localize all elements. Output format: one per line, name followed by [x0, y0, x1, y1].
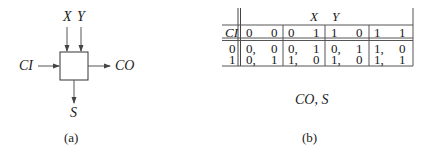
column-label-x: X	[310, 10, 318, 23]
s-arrowhead-icon	[72, 97, 77, 104]
y-arrowhead-icon	[79, 45, 84, 52]
row-header-ci: CI	[225, 26, 238, 39]
x-arrowhead-icon	[65, 45, 70, 52]
cell-r1-c3-s: 1	[399, 53, 406, 66]
cell-r1-c2-co: 1,	[331, 53, 341, 66]
col-4-y: 1	[399, 26, 406, 39]
cell-r1-c3-co: 1,	[374, 53, 384, 66]
cell-r1-c1-s: 0	[313, 53, 320, 66]
col-3-x: 1	[331, 26, 338, 39]
caption-b: (b)	[302, 131, 317, 144]
cell-r1-c0-co: 0,	[246, 53, 256, 66]
cell-r1-c2-s: 0	[356, 53, 363, 66]
col-3-y: 0	[356, 26, 363, 39]
x-input-label: X	[63, 10, 72, 24]
col-1-x: 0	[246, 26, 253, 39]
co-arrowhead-icon	[104, 64, 111, 69]
full-adder-block	[60, 52, 88, 80]
column-label-y: Y	[332, 10, 339, 23]
cell-r1-c0-s: 1	[271, 53, 278, 66]
row-1-ci: 1	[229, 53, 236, 66]
col-1-y: 0	[271, 26, 278, 39]
col-2-y: 1	[313, 26, 320, 39]
output-label: CO, S	[295, 93, 328, 106]
s-output-label: S	[70, 106, 77, 120]
y-input-label: Y	[77, 10, 85, 24]
col-4-x: 1	[374, 26, 381, 39]
co-output-label: CO	[115, 59, 134, 73]
ci-arrowhead-icon	[53, 64, 60, 69]
col-2-x: 0	[288, 26, 295, 39]
caption-a: (a)	[64, 131, 78, 144]
ci-input-label: CI	[19, 59, 33, 73]
cell-r1-c1-co: 1,	[288, 53, 298, 66]
